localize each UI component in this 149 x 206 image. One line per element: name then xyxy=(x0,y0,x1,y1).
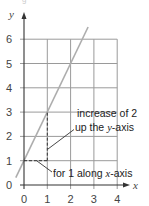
y-tick-5: 5 xyxy=(6,58,12,70)
x-axis-label: x xyxy=(132,179,138,191)
y-tick-6: 6 xyxy=(6,33,12,45)
y-tick-3: 3 xyxy=(6,106,12,118)
x-tick-1: 1 xyxy=(44,193,50,205)
axes xyxy=(20,17,126,189)
y-tick-4: 4 xyxy=(6,82,12,94)
y-tick-1: 1 xyxy=(6,155,12,167)
x-tick-2: 2 xyxy=(68,193,74,205)
cropped-heading-fragment: g xyxy=(22,0,26,4)
annotation-increase: increase of 2 up the y-axis xyxy=(74,106,144,134)
x-tick-4: 4 xyxy=(114,193,120,205)
leader-line-along xyxy=(37,161,52,172)
y-tick-0: 0 xyxy=(6,179,12,191)
gradient-chart: g y x 0 1 2 3 4 5 6 xyxy=(0,0,149,206)
x-tick-3: 3 xyxy=(91,193,97,205)
annotation-increase-line2: up the y-axis xyxy=(75,121,134,133)
x-axis-arrow-icon xyxy=(123,183,130,188)
annotation-along-text: for 1 along x-axis xyxy=(53,167,132,179)
annotation-increase-line1: increase of 2 xyxy=(77,107,137,119)
y-axis-arrow-icon xyxy=(22,12,27,19)
y-tick-labels: 0 1 2 3 4 5 6 xyxy=(6,33,12,191)
x-tick-0: 0 xyxy=(21,193,27,205)
x-tick-labels: 0 1 2 3 4 xyxy=(21,193,120,205)
y-tick-2: 2 xyxy=(6,130,12,142)
data-line xyxy=(16,27,88,178)
annotation-along: for 1 along x-axis xyxy=(53,167,132,179)
y-axis-label: y xyxy=(8,8,14,20)
